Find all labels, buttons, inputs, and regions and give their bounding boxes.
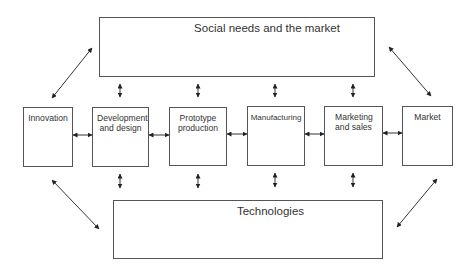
stage-label: Innovation xyxy=(24,114,72,124)
technologies-label: Technologies xyxy=(159,205,382,218)
stage-label: Manufacturing xyxy=(248,113,304,122)
stage-manufacturing: Manufacturing xyxy=(247,106,305,166)
stage-label: Marketing and sales xyxy=(325,113,382,133)
arrow-social-market xyxy=(389,47,431,96)
stage-innovation: Innovation xyxy=(23,107,73,167)
social-needs-market-label: Social needs and the market xyxy=(160,22,374,35)
arrow-technologies-market xyxy=(397,179,437,227)
stage-marketing-sales: Marketing and sales xyxy=(324,106,383,166)
stage-market: Market xyxy=(402,106,453,166)
social-needs-market-box: Social needs and the market xyxy=(99,17,375,77)
stage-development-design: Development and design xyxy=(92,107,149,167)
arrow-innovation-technologies xyxy=(52,180,99,229)
stage-label: Prototype production xyxy=(170,114,226,134)
arrow-innovation-social xyxy=(52,48,92,98)
technologies-box: Technologies xyxy=(113,200,383,259)
stage-label: Market xyxy=(403,113,452,123)
stage-label: Development and design xyxy=(93,114,148,134)
stage-prototype-production: Prototype production xyxy=(169,107,227,166)
